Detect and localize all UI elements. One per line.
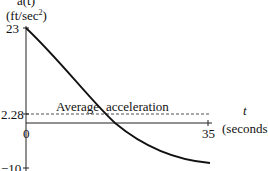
x-axis-label-t: t bbox=[243, 104, 247, 117]
annotation-average: Average bbox=[56, 100, 99, 113]
y-axis-label-line1: a(t) bbox=[17, 0, 35, 7]
acceleration-curve bbox=[26, 28, 210, 163]
y-tick-label-23: 23 bbox=[6, 22, 19, 35]
chart-plot bbox=[0, 0, 268, 171]
y-tick-label-2.28: 2.28 bbox=[1, 108, 24, 121]
annotation-acceleration: acceleration bbox=[106, 100, 169, 113]
x-tick-label-0: 0 bbox=[23, 127, 30, 140]
x-tick-label-35: 35 bbox=[202, 127, 215, 140]
y-tick-label-neg10: −10 bbox=[1, 162, 21, 171]
x-axis-label-seconds: (seconds) bbox=[222, 122, 268, 135]
